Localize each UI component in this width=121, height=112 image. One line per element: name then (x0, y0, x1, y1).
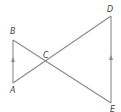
label-b: B (10, 27, 16, 36)
parallel-arrow-icon-de (109, 55, 113, 60)
triangle-diagram: B A C D E (0, 0, 121, 112)
label-e: E (110, 105, 116, 112)
parallel-arrow-icon-ab (11, 57, 15, 62)
label-d: D (107, 5, 113, 14)
label-c: C (43, 51, 49, 60)
label-a: A (9, 86, 15, 95)
